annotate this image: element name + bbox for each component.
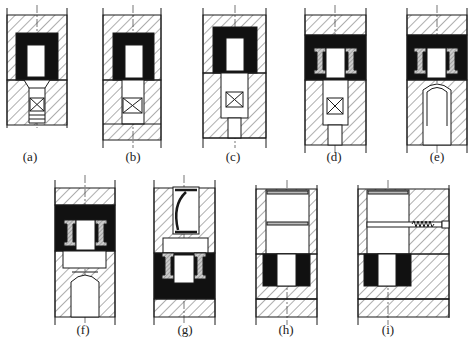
panel-g [154,175,215,325]
panel-label-e: (e) [430,149,444,165]
panel-d [305,5,366,153]
panel-label-i: (i) [382,322,394,338]
panel-a [7,5,67,128]
panel-e [407,5,467,153]
panel-b [103,5,161,148]
panel-label-g: (g) [177,322,192,338]
diagram-canvas [0,0,471,363]
panel-c [203,5,266,148]
panel-i [358,180,449,325]
panel-h [256,180,317,325]
panel-f [55,175,115,325]
panel-label-d: (d) [326,149,341,165]
panel-label-h: (h) [278,322,293,338]
figure-caption [160,350,330,356]
panel-label-f: (f) [77,322,90,338]
panel-label-a: (a) [23,149,37,165]
panel-label-c: (c) [226,149,240,165]
panel-label-b: (b) [125,149,140,165]
